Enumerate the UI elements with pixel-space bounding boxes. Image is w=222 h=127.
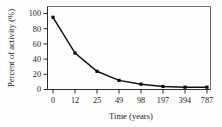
- y-tick-label-40: 40: [33, 55, 41, 64]
- x-tick-label-2: 25: [93, 96, 101, 105]
- data-point: [73, 51, 76, 54]
- data-point: [161, 85, 164, 88]
- y-tick-label-20: 20: [33, 70, 41, 79]
- y-axis-ticks: [44, 14, 48, 90]
- y-tick-label-60: 60: [33, 40, 41, 49]
- chart-svg: 0 20 40 60 80 100 0 12 25 49 98 197 394 …: [0, 0, 222, 127]
- x-tick-label-7: 787: [201, 96, 213, 105]
- y-tick-label-80: 80: [33, 25, 41, 34]
- data-point: [51, 16, 54, 19]
- data-point: [95, 70, 98, 73]
- data-point: [139, 83, 142, 86]
- x-axis-ticks: [53, 90, 207, 94]
- x-axis-title: Time (years): [109, 111, 153, 121]
- y-tick-label-0: 0: [37, 85, 41, 94]
- x-tick-label-6: 394: [179, 96, 191, 105]
- data-point: [183, 86, 186, 89]
- x-tick-label-1: 12: [71, 96, 79, 105]
- data-point: [117, 79, 120, 82]
- x-tick-label-4: 98: [137, 96, 145, 105]
- chart-figure: 0 20 40 60 80 100 0 12 25 49 98 197 394 …: [0, 0, 222, 127]
- y-axis-title: Percent of activity (%): [6, 9, 16, 87]
- data-point: [205, 86, 208, 89]
- x-tick-label-3: 49: [115, 96, 123, 105]
- x-tick-label-5: 197: [157, 96, 169, 105]
- x-tick-label-0: 0: [51, 96, 55, 105]
- y-tick-label-100: 100: [29, 9, 41, 18]
- data-series-markers: [51, 16, 208, 89]
